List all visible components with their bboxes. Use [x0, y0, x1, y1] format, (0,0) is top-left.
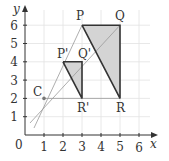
point-label-q-prime: Q': [78, 47, 91, 61]
x-tick-3: 3: [78, 140, 86, 154]
origin-label: 0: [15, 138, 23, 152]
x-tick-1: 1: [40, 140, 48, 154]
point-label-r: R: [116, 101, 126, 115]
x-tick-5: 5: [116, 140, 124, 154]
x-tick-6: 6: [135, 141, 143, 155]
point-label-c: C: [33, 85, 42, 99]
point-label-q: Q: [115, 9, 125, 23]
y-tick-2: 2: [10, 92, 18, 106]
x-tick-2: 2: [59, 140, 67, 154]
y-tick-5: 5: [10, 37, 18, 51]
y-axis-label: y: [12, 2, 20, 16]
y-tick-6: 6: [10, 19, 18, 33]
point-label-p-prime: P': [57, 47, 68, 61]
y-axis-arrow-icon: [22, 5, 28, 12]
y-tick-1: 1: [10, 110, 18, 124]
enlargement-diagram: 1 2 3 4 5 6 1 2 3 4 5 6 0 x y P Q R P' Q…: [0, 0, 169, 161]
y-tick-4: 4: [10, 55, 18, 69]
point-label-p: P: [76, 9, 84, 23]
center-point-c: [42, 97, 46, 101]
x-axis-label: x: [150, 137, 157, 151]
x-tick-4: 4: [97, 140, 105, 154]
point-label-r-prime: R': [77, 101, 89, 115]
y-tick-3: 3: [10, 74, 18, 88]
